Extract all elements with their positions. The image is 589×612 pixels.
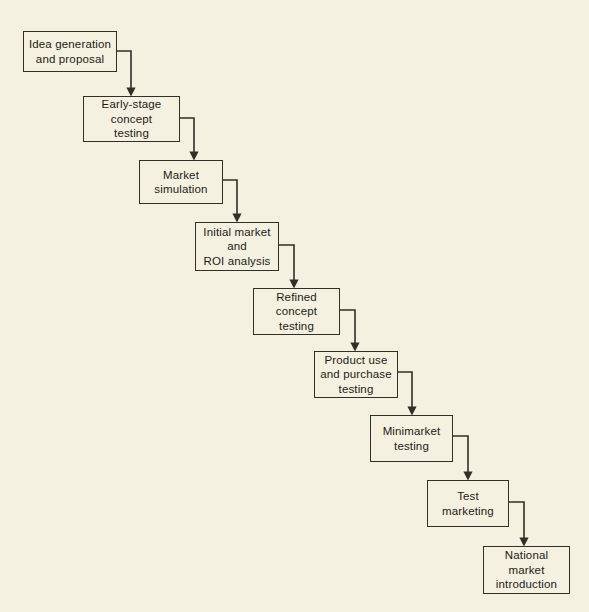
flow-connector-4 — [279, 245, 299, 289]
connector-line — [509, 502, 524, 543]
connector-line — [279, 245, 294, 285]
flow-connector-3 — [223, 180, 242, 223]
connector-line — [117, 51, 131, 93]
flow-step-label: Initial market and ROI analysis — [199, 225, 275, 269]
flow-step-label: Product use and purchase testing — [318, 353, 394, 397]
flow-connector-8 — [509, 502, 529, 547]
flow-connector-6 — [398, 372, 417, 416]
connector-line — [223, 180, 237, 219]
flow-step-test-marketing[interactable]: Test marketing — [427, 480, 509, 527]
flow-step-label: Refined concept testing — [257, 290, 336, 334]
connector-line — [340, 310, 355, 348]
flow-step-product-use-and-purchase-testing[interactable]: Product use and purchase testing — [314, 351, 398, 398]
flow-step-label: Test marketing — [431, 489, 505, 518]
connector-line — [453, 436, 468, 477]
flow-step-label: Market simulation — [143, 168, 219, 197]
flow-step-national-market-introduction[interactable]: National market introduction — [483, 546, 570, 594]
flow-connector-1 — [117, 51, 136, 97]
connector-line — [180, 118, 194, 157]
connector-line — [398, 372, 412, 412]
flowchart-canvas: Idea generation and proposalEarly-stage … — [0, 0, 589, 612]
flow-step-label: Minimarket testing — [374, 424, 449, 453]
flow-step-idea-generation-and-proposal[interactable]: Idea generation and proposal — [23, 31, 117, 72]
flow-step-market-simulation[interactable]: Market simulation — [139, 160, 223, 204]
flow-step-early-stage-concept-testing[interactable]: Early-stage concept testing — [83, 96, 180, 142]
flow-connector-5 — [340, 310, 360, 352]
flow-step-initial-market-and-roi-analysis[interactable]: Initial market and ROI analysis — [195, 222, 279, 271]
flow-step-minimarket-testing[interactable]: Minimarket testing — [370, 415, 453, 462]
flow-step-label: Early-stage concept testing — [87, 97, 176, 141]
flow-connector-7 — [453, 436, 473, 481]
flow-connector-2 — [180, 118, 199, 161]
flow-step-label: Idea generation and proposal — [27, 37, 113, 66]
flow-step-label: National market introduction — [487, 548, 566, 592]
flow-step-refined-concept-testing[interactable]: Refined concept testing — [253, 288, 340, 335]
